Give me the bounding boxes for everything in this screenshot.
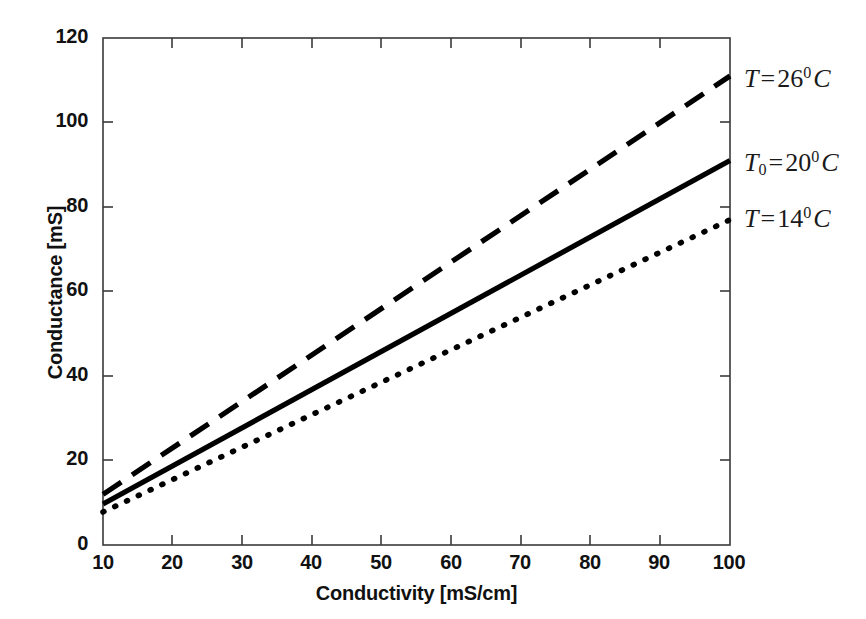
series-label-dashed: T=260C: [744, 64, 831, 94]
series-label-solid-symbol: T: [744, 148, 758, 177]
figure-canvas: Conductance [mS] 0 20 40 60 80 100 120 1…: [0, 0, 866, 619]
series-label-dashed-value: 26: [777, 64, 803, 93]
series-label-dotted-symbol: T: [744, 204, 758, 233]
series-label-dashed-degree: 0: [803, 64, 811, 81]
series-label-solid-unit: C: [819, 148, 838, 177]
series-label-solid-value: 20: [785, 148, 811, 177]
series-label-dashed-symbol: T: [744, 64, 758, 93]
series-label-dotted: T=140C: [744, 204, 831, 234]
series-label-dotted-value: 14: [777, 204, 803, 233]
series-label-dotted-degree: 0: [803, 204, 811, 221]
plot-area: [0, 0, 866, 619]
series-label-dashed-unit: C: [811, 64, 830, 93]
series-label-solid: T0=200C: [744, 148, 839, 179]
series-label-solid-subscript: 0: [758, 161, 766, 178]
series-label-dotted-unit: C: [811, 204, 830, 233]
